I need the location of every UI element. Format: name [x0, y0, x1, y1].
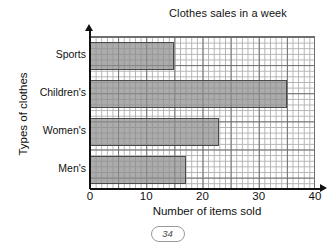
bar-men-s: [90, 156, 186, 184]
x-tick-label: 30: [239, 190, 279, 202]
y-tick-label: Children's: [0, 86, 86, 98]
bar-children-s: [90, 80, 287, 108]
x-tick-label: 10: [126, 190, 166, 202]
y-tick-label: Sports: [0, 48, 86, 60]
x-tick-label: 0: [70, 190, 110, 202]
y-tick-label: Men's: [0, 162, 86, 174]
chart-title: Clothes sales in a week: [128, 7, 328, 19]
bar-women-s: [90, 118, 219, 146]
y-axis-tick-labels: SportsChildren'sWomen'sMen's: [0, 36, 86, 188]
y-axis-arrow-icon: [85, 24, 93, 31]
bar-sports: [90, 42, 174, 70]
page-number-badge: 34: [151, 226, 185, 242]
plot-area: [90, 36, 315, 188]
y-axis-line: [89, 30, 91, 189]
x-tick-label: 20: [183, 190, 223, 202]
chart-figure: Clothes sales in a week Types of clothes…: [0, 0, 335, 246]
x-axis-title: Number of items sold: [88, 205, 326, 217]
y-tick-label: Women's: [0, 124, 86, 136]
x-tick-label: 40: [295, 190, 335, 202]
